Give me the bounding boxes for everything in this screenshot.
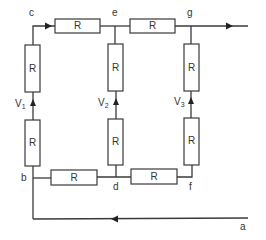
node-label-d: d [113, 181, 119, 192]
node-label-f: f [189, 181, 192, 192]
node-label-e: e [112, 7, 118, 18]
resistor-label: R [74, 20, 81, 31]
resistor-label: R [29, 137, 36, 148]
node-label-b: b [21, 172, 27, 183]
voltage-label-v2: V2 [98, 97, 109, 109]
resistor-label: R [188, 62, 195, 73]
voltage-label-v3: V3 [174, 96, 185, 108]
resistor-label: R [150, 171, 157, 182]
resistor-label: R [188, 135, 195, 146]
arrow-left-icon [111, 216, 118, 223]
arrow-up-icon [188, 97, 194, 104]
resistor-label: R [112, 136, 119, 147]
node-label-a: a [240, 221, 246, 232]
arrow-up-icon [30, 99, 36, 106]
resistor-label: R [112, 62, 119, 73]
arrow-right-icon [226, 23, 233, 30]
node-label-c: c [29, 7, 34, 18]
node-label-g: g [187, 7, 193, 18]
arrow-right-icon [45, 23, 52, 30]
arrow-up-icon [113, 98, 119, 105]
resistor-label: R [70, 172, 77, 183]
resistor-label: R [149, 20, 156, 31]
resistor-label: R [29, 63, 36, 74]
circuit-diagram: R R R R R R R R R R c e g b d f a V1 V2 … [0, 0, 266, 240]
voltage-label-v1: V1 [15, 98, 26, 110]
